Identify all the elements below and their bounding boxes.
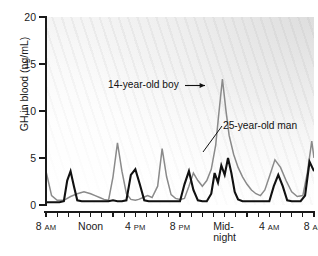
y-tick-15 (39, 63, 45, 64)
x-tick-h1 (57, 212, 58, 217)
y-tick-20 (39, 16, 45, 17)
growth-hormone-chart: GH in blood (ng/mL) 05101520 8 AMNoon4 P… (0, 0, 318, 256)
annotation-label-man: 25-year-old man (223, 120, 297, 131)
y-tick-label-15: 15 (0, 59, 36, 70)
y-tick-10 (39, 110, 45, 111)
x-tick-h7 (124, 212, 125, 217)
x-tick-h12 (179, 212, 180, 217)
annotation-label-boy: 14-year-old boy (108, 79, 179, 90)
x-tick-h16 (224, 212, 225, 217)
x-tick-label-h16: Mid-night (213, 221, 236, 244)
x-tick-label-h12: 8 PM (170, 221, 191, 232)
y-tick-label-5: 5 (0, 153, 36, 164)
x-tick-h23 (302, 212, 303, 217)
x-tick-h20 (269, 212, 270, 217)
x-tick-h9 (146, 212, 147, 217)
y-tick-label-20: 20 (0, 12, 36, 23)
x-tick-h13 (191, 212, 192, 217)
x-tick-label-h8: 4 PM (125, 221, 146, 232)
series-line-14-year-old-boy (46, 79, 314, 200)
x-tick-h15 (213, 212, 214, 217)
x-tick-h8 (135, 212, 136, 217)
x-tick-h22 (291, 212, 292, 217)
x-tick-h4 (90, 212, 91, 217)
x-tick-label-h24: 8 AM (304, 221, 318, 232)
y-tick-label-10: 10 (0, 106, 36, 117)
plot-area (46, 17, 314, 205)
x-tick-h18 (246, 212, 247, 217)
x-tick-label-h20: 4 AM (259, 221, 280, 232)
y-tick-5 (39, 157, 45, 158)
y-tick-label-0: 0 (0, 200, 36, 211)
x-tick-h5 (101, 212, 102, 217)
series-container (46, 17, 314, 205)
y-axis-line (45, 16, 47, 206)
x-tick-h11 (168, 212, 169, 217)
x-tick-h21 (280, 212, 281, 217)
x-tick-h19 (258, 212, 259, 217)
x-tick-h14 (202, 212, 203, 217)
x-tick-h24 (313, 212, 314, 217)
x-tick-label-h4: Noon (78, 221, 103, 232)
x-tick-h3 (79, 212, 80, 217)
x-tick-h0 (45, 212, 46, 217)
x-tick-h2 (68, 212, 69, 217)
x-tick-label-h0: 8 AM (36, 221, 57, 232)
x-tick-h6 (112, 212, 113, 217)
x-tick-h17 (235, 212, 236, 217)
x-tick-h10 (157, 212, 158, 217)
y-tick-0 (39, 204, 45, 205)
